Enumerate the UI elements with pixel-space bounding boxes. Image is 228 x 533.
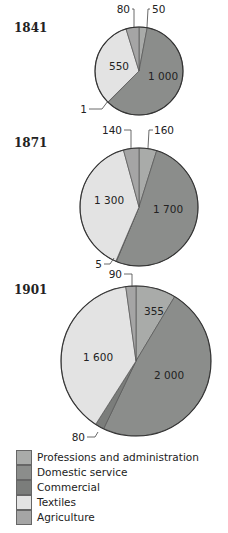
legend-item-domestic-service: Domestic service — [16, 465, 199, 480]
value-label-1841-textiles: 550 — [109, 60, 129, 72]
legend-swatch-domestic-service — [16, 465, 32, 480]
pie-1841: 1841 80 50 1 550 1 000 — [14, 3, 183, 115]
legend-item-textiles: Textiles — [16, 495, 199, 510]
value-label-1901-professions: 355 — [144, 305, 164, 317]
value-label-1841-domestic: 1 000 — [148, 70, 178, 82]
legend-swatch-agriculture — [16, 510, 32, 525]
legend-item-professions: Professions and administration — [16, 450, 199, 465]
value-label-1901-commercial: 80 — [72, 431, 85, 443]
legend-label: Agriculture — [37, 510, 95, 525]
legend-label: Textiles — [37, 495, 76, 510]
value-label-1841-professions: 50 — [152, 3, 165, 15]
legend: Professions and administration Domestic … — [16, 450, 199, 525]
legend-label: Professions and administration — [37, 450, 199, 465]
value-label-1901-domestic: 2 000 — [154, 369, 184, 381]
value-label-1871-commercial: 5 — [95, 258, 102, 270]
year-label-1901: 1901 — [14, 283, 47, 297]
legend-item-agriculture: Agriculture — [16, 510, 199, 525]
legend-swatch-commercial — [16, 480, 32, 495]
legend-label: Domestic service — [37, 465, 127, 480]
value-label-1841-commercial: 1 — [80, 103, 87, 115]
value-label-1871-domestic: 1 700 — [153, 203, 183, 215]
legend-item-commercial: Commercial — [16, 480, 199, 495]
pie-1871: 1871 140 160 5 1 300 1 700 — [14, 124, 198, 270]
value-label-1901-agriculture: 90 — [109, 268, 122, 280]
value-label-1871-professions: 160 — [154, 124, 174, 136]
pie-1901: 1901 90 80 355 1 600 2 000 — [14, 268, 211, 443]
value-label-1841-agriculture: 80 — [117, 3, 130, 15]
value-label-1901-textiles: 1 600 — [83, 351, 113, 363]
legend-label: Commercial — [37, 480, 100, 495]
legend-swatch-professions — [16, 450, 32, 465]
value-label-1871-textiles: 1 300 — [94, 194, 124, 206]
year-label-1871: 1871 — [14, 136, 47, 150]
legend-swatch-textiles — [16, 495, 32, 510]
year-label-1841: 1841 — [14, 21, 47, 35]
value-label-1871-agriculture: 140 — [102, 124, 122, 136]
